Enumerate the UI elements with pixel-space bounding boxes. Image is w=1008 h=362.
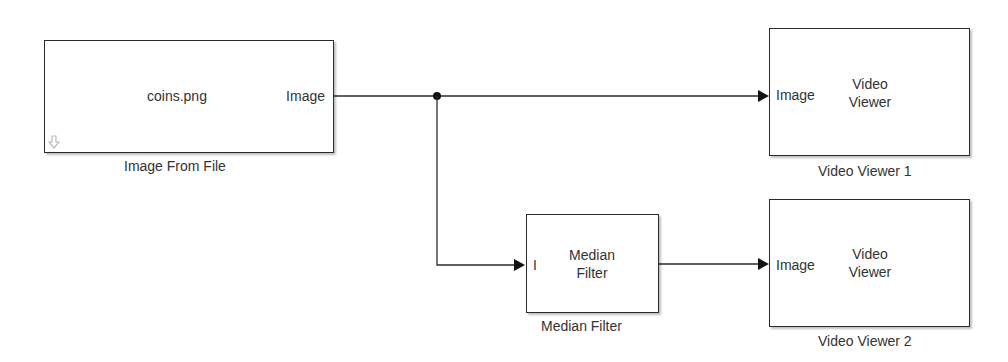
input-port-label: I [533, 257, 537, 273]
video-viewer-1-name: Video Viewer 1 [818, 163, 912, 179]
image-from-file-name: Image From File [124, 158, 226, 174]
block-content-line: Viewer [840, 263, 900, 281]
video-viewer-2-block[interactable]: Image Video Viewer [769, 199, 970, 327]
block-content: Video Viewer [840, 75, 900, 111]
input-port-label: Image [776, 257, 815, 273]
input-port-label: Image [776, 87, 815, 103]
block-content: Median Filter [557, 246, 627, 282]
arrowhead-icon [514, 259, 525, 271]
arrowhead-icon [758, 90, 769, 102]
block-content-line: Viewer [840, 93, 900, 111]
block-content-line: Video [840, 75, 900, 93]
video-viewer-2-name: Video Viewer 2 [818, 333, 912, 349]
output-port-label: Image [286, 88, 325, 104]
arrowhead-icon [758, 258, 769, 270]
image-from-file-block[interactable]: coins.png Image [44, 40, 334, 153]
video-viewer-1-block[interactable]: Image Video Viewer [769, 28, 970, 156]
median-filter-block[interactable]: I Median Filter [526, 214, 659, 313]
block-content-filename: coins.png [147, 88, 207, 104]
signal-line-to-median-filter[interactable] [437, 96, 516, 265]
block-content-line: Video [840, 245, 900, 263]
block-content-line: Filter [557, 264, 627, 282]
block-content-line: Median [557, 246, 627, 264]
down-arrow-icon [48, 135, 60, 149]
median-filter-name: Median Filter [541, 318, 622, 334]
block-content: Video Viewer [840, 245, 900, 281]
